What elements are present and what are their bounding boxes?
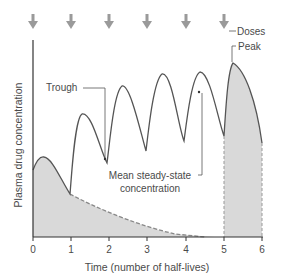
x-tick-labels: 0 1 2 3 4 5 6 — [30, 244, 265, 255]
svg-text:4: 4 — [183, 244, 189, 255]
svg-text:6: 6 — [259, 244, 265, 255]
svg-text:2: 2 — [106, 244, 112, 255]
mean-label-line2: concentration — [120, 183, 180, 194]
svg-text:3: 3 — [144, 244, 150, 255]
single-dose-fill — [33, 157, 215, 237]
svg-text:0: 0 — [30, 244, 36, 255]
final-interval-fill — [224, 63, 262, 237]
dose-arrows — [28, 14, 229, 29]
dose-arrow-icon — [219, 14, 229, 29]
mean-label-line1: Mean steady-state — [109, 170, 192, 181]
peak-label: Peak — [238, 41, 262, 52]
svg-text:5: 5 — [221, 244, 227, 255]
trough-label: Trough — [46, 82, 77, 93]
x-axis-label: Time (number of half-lives) — [85, 261, 209, 273]
dose-arrow-icon — [66, 14, 76, 29]
dose-arrow-icon — [28, 14, 38, 29]
peak-leader — [232, 46, 236, 62]
chart: 0 1 2 3 4 5 6 Time (number of half-lives… — [0, 0, 282, 280]
mean-marker — [198, 91, 200, 93]
trough-leader — [83, 88, 105, 158]
mean-leader — [198, 93, 202, 175]
dose-arrow-icon — [181, 14, 191, 29]
doses-label: Doses — [237, 26, 265, 37]
dose-arrow-icon — [142, 14, 152, 29]
svg-text:1: 1 — [68, 244, 74, 255]
x-ticks — [33, 237, 262, 241]
dose-arrow-icon — [104, 14, 114, 29]
y-axis-label: Plasma drug concentration — [12, 82, 24, 207]
trough-marker — [104, 158, 106, 160]
